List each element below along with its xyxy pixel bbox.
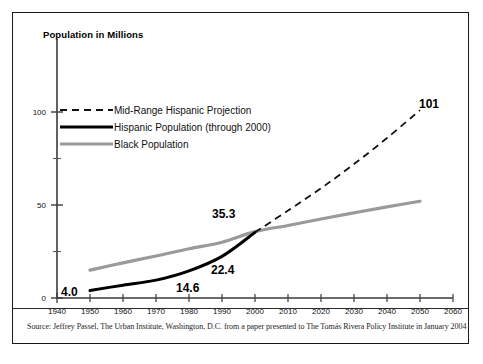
legend-item-projection[interactable]: Mid-Range Hispanic Projection xyxy=(60,105,251,116)
annotation-4-0: 4.0 xyxy=(61,285,78,299)
y-tick-label-0: 0 xyxy=(42,294,47,303)
source-note: Source: Jeffrey Passel, The Urban Instit… xyxy=(27,322,458,331)
series-black-population xyxy=(90,201,420,270)
figure-container: Population in Millions 0 50 100 xyxy=(12,12,469,344)
legend-item-black[interactable]: Black Population xyxy=(60,139,189,150)
legend-label-black: Black Population xyxy=(114,139,189,150)
legend-label-hispanic: Hispanic Population (through 2000) xyxy=(114,122,271,133)
y-tick-label-50: 50 xyxy=(37,201,46,210)
annotation-35-3: 35.3 xyxy=(212,207,236,221)
legend-item-hispanic[interactable]: Hispanic Population (through 2000) xyxy=(60,122,271,133)
legend-label-projection: Mid-Range Hispanic Projection xyxy=(114,105,251,116)
chart-plot-area: 0 50 100 1940 1950 1960 1970 1980 1990 2… xyxy=(13,13,468,343)
series-hispanic-projection xyxy=(255,110,420,232)
chart-legend: Mid-Range Hispanic Projection Hispanic P… xyxy=(60,105,271,150)
annotation-22-4: 22.4 xyxy=(211,263,235,277)
annotation-14-6: 14.6 xyxy=(176,281,200,295)
y-tick-label-100: 100 xyxy=(33,108,47,117)
source-divider xyxy=(13,308,468,309)
annotation-101: 101 xyxy=(419,97,439,111)
